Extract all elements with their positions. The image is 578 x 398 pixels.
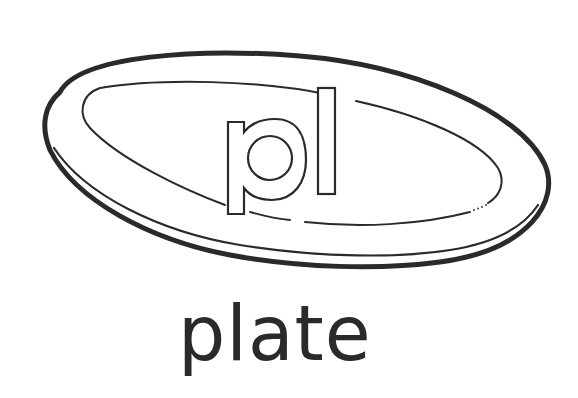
phonics-card: plate [0, 0, 578, 398]
word-label: plate [178, 296, 372, 372]
blend-letters-pl [228, 88, 335, 214]
letter-l [318, 88, 335, 194]
